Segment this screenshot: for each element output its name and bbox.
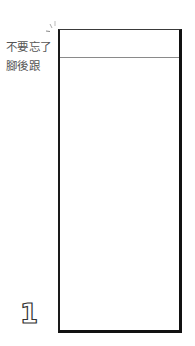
- caption-line-1: 不要忘了: [6, 38, 58, 57]
- panel-divider: [60, 57, 179, 58]
- page-number: 1: [20, 301, 38, 327]
- caption-text: 不要忘了 腳後跟: [6, 38, 58, 76]
- caption-line-2: 腳後跟: [6, 57, 58, 76]
- comic-panel-frame: [58, 29, 182, 333]
